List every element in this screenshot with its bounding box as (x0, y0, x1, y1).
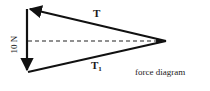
label-tension-t: T (93, 8, 100, 19)
label-weight-10n: 10 N (10, 33, 19, 57)
label-tension-t1: T1 (91, 60, 102, 73)
diagram-caption: force diagram (135, 68, 185, 77)
force-diagram (0, 0, 210, 91)
label-t1-subscript: 1 (98, 65, 102, 73)
